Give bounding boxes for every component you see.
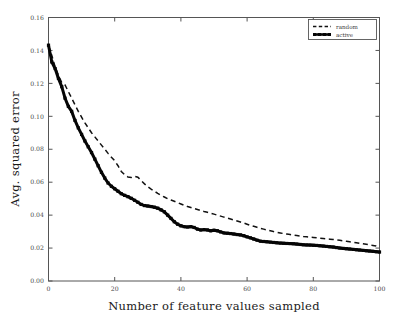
data-point-marker xyxy=(255,239,258,242)
data-point-marker xyxy=(275,241,278,244)
data-point-marker xyxy=(242,234,245,237)
plot-frame xyxy=(49,18,380,282)
data-point-marker xyxy=(265,240,268,243)
data-point-marker xyxy=(361,249,364,252)
data-point-marker xyxy=(318,244,321,247)
data-point-marker xyxy=(202,228,205,231)
data-point-marker xyxy=(103,176,106,179)
data-point-marker xyxy=(269,241,272,244)
x-axis-ticks: 020406080100 xyxy=(47,18,386,292)
data-point-marker xyxy=(345,247,348,250)
data-point-marker xyxy=(87,145,90,148)
series-line-random xyxy=(49,46,380,248)
data-point-marker xyxy=(305,243,308,246)
y-tick-label: 0.00 xyxy=(30,277,44,284)
y-tick-label: 0.02 xyxy=(30,244,44,251)
data-point-marker xyxy=(289,242,292,245)
data-point-marker xyxy=(209,229,212,232)
data-point-marker xyxy=(216,229,219,232)
data-point-marker xyxy=(226,232,229,235)
x-axis-label: Number of feature values sampled xyxy=(108,299,320,313)
data-point-marker xyxy=(292,242,295,245)
series-markers-active xyxy=(47,44,381,254)
data-point-marker xyxy=(285,242,288,245)
y-tick-label: 0.08 xyxy=(30,145,44,152)
data-point-marker xyxy=(375,250,378,253)
data-point-marker xyxy=(328,245,331,248)
data-point-marker xyxy=(113,187,116,190)
data-point-marker xyxy=(219,230,222,233)
x-tick-label: 40 xyxy=(177,285,185,292)
data-point-marker xyxy=(100,171,103,174)
data-point-marker xyxy=(133,199,136,202)
data-point-marker xyxy=(73,119,76,122)
data-point-marker xyxy=(338,246,341,249)
data-point-marker xyxy=(50,60,53,63)
data-point-marker xyxy=(186,225,189,228)
data-point-marker xyxy=(222,231,225,234)
data-point-marker xyxy=(295,243,298,246)
legend-marker xyxy=(313,33,316,36)
data-point-marker xyxy=(193,226,196,229)
data-point-marker xyxy=(312,244,315,247)
y-tick-label: 0.16 xyxy=(30,14,44,21)
data-point-marker xyxy=(120,192,123,195)
data-point-marker xyxy=(298,243,301,246)
data-point-marker xyxy=(368,249,371,252)
chart-legend[interactable]: random active xyxy=(309,20,377,40)
legend-marker xyxy=(318,33,321,36)
data-point-marker xyxy=(110,185,113,188)
y-tick-label: 0.04 xyxy=(30,211,44,218)
y-tick-label: 0.12 xyxy=(30,80,44,87)
data-point-marker xyxy=(123,194,126,197)
data-point-marker xyxy=(183,225,186,228)
y-axis-label: Avg. squared error xyxy=(8,91,22,208)
chart-canvas: 020406080100 0.000.020.040.060.080.100.1… xyxy=(0,0,398,323)
data-point-marker xyxy=(176,223,179,226)
data-point-marker xyxy=(166,214,169,217)
data-point-marker xyxy=(63,97,66,100)
data-point-marker xyxy=(146,204,149,207)
data-point-marker xyxy=(126,195,129,198)
data-point-marker xyxy=(365,249,368,252)
data-point-marker xyxy=(83,139,86,142)
data-point-marker xyxy=(54,67,57,70)
data-point-marker xyxy=(80,133,83,136)
data-point-marker xyxy=(355,248,358,251)
data-point-marker xyxy=(282,242,285,245)
data-point-marker xyxy=(116,190,119,193)
series-line-active xyxy=(49,45,380,252)
legend-label-random: random xyxy=(336,24,359,30)
data-point-marker xyxy=(325,245,328,248)
data-point-marker xyxy=(130,197,133,200)
data-point-marker xyxy=(199,228,202,231)
data-point-marker xyxy=(189,225,192,228)
data-point-marker xyxy=(97,164,100,167)
data-point-marker xyxy=(173,220,176,223)
data-point-marker xyxy=(236,233,239,236)
data-point-marker xyxy=(249,236,252,239)
data-point-marker xyxy=(371,250,374,253)
data-point-marker xyxy=(70,110,73,113)
legend-marker xyxy=(328,33,331,36)
data-point-marker xyxy=(90,151,93,154)
x-tick-label: 0 xyxy=(47,285,51,292)
data-point-marker xyxy=(322,244,325,247)
y-axis-ticks: 0.000.020.040.060.080.100.120.140.16 xyxy=(30,14,379,285)
data-point-marker xyxy=(106,181,109,184)
data-point-marker xyxy=(229,232,232,235)
data-point-marker xyxy=(378,250,381,253)
data-point-marker xyxy=(348,247,351,250)
data-point-marker xyxy=(259,240,262,243)
data-point-marker xyxy=(153,206,156,209)
data-point-marker xyxy=(77,126,80,129)
y-tick-label: 0.14 xyxy=(30,47,44,54)
data-point-marker xyxy=(262,240,265,243)
data-point-marker xyxy=(136,201,139,204)
data-point-marker xyxy=(143,204,146,207)
data-point-marker xyxy=(272,241,275,244)
data-point-marker xyxy=(163,210,166,213)
data-point-marker xyxy=(315,244,318,247)
x-tick-label: 60 xyxy=(243,285,251,292)
data-point-marker xyxy=(159,208,162,211)
